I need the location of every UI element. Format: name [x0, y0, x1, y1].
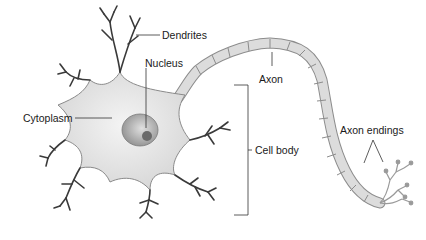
nucleus — [122, 114, 158, 146]
axon — [178, 39, 380, 203]
nucleolus — [142, 131, 152, 141]
label-dendrites: Dendrites — [162, 29, 207, 41]
label-axon: Axon — [259, 73, 283, 85]
axon-terminals — [380, 160, 413, 205]
label-axon-endings: Axon endings — [340, 124, 404, 136]
label-cytoplasm: Cytoplasm — [23, 112, 73, 124]
label-nucleus: Nucleus — [145, 57, 183, 69]
label-cell-body: Cell body — [255, 144, 299, 156]
